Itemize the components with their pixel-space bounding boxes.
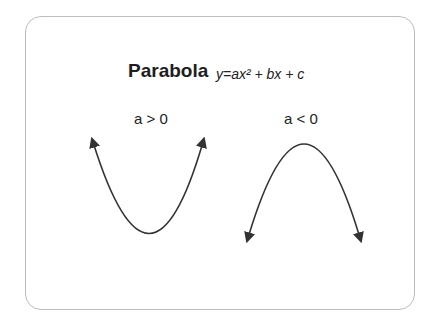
parabola-curves — [0, 0, 436, 327]
parabola-down-curve — [248, 144, 360, 238]
parabola-up-curve — [93, 142, 203, 234]
